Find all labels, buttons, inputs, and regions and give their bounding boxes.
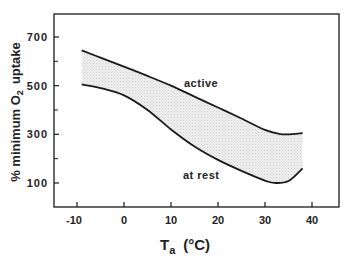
series-label-active: active bbox=[184, 77, 218, 89]
x-tick-label: 0 bbox=[121, 214, 127, 226]
x-axis: -10010203040 bbox=[66, 202, 318, 226]
y-tick-label: 700 bbox=[27, 31, 48, 43]
x-tick-label: -10 bbox=[66, 214, 82, 226]
svg-text:% minimum O2uptake: % minimum O2uptake bbox=[8, 42, 25, 182]
y-axis-title: % minimum O2uptake bbox=[8, 42, 25, 182]
band-fill bbox=[82, 50, 303, 183]
y-tick-label: 100 bbox=[27, 177, 48, 189]
series-label-rest: at rest bbox=[183, 169, 220, 181]
y-tick-label: 300 bbox=[27, 128, 48, 140]
svg-text:Ta(°C): Ta(°C) bbox=[160, 236, 210, 256]
x-tick-label: 30 bbox=[259, 214, 271, 226]
y-tick-label: 500 bbox=[27, 80, 48, 92]
x-axis-title: Ta(°C) bbox=[160, 236, 210, 256]
chart: 100300500700 -10010203040 active at rest… bbox=[0, 0, 346, 267]
x-tick-label: 10 bbox=[165, 214, 177, 226]
x-tick-label: 20 bbox=[212, 214, 224, 226]
x-tick-label: 40 bbox=[306, 214, 318, 226]
